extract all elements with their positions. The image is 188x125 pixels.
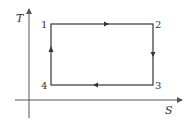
arrow-up-icon — [49, 46, 54, 52]
arrow-right-icon — [104, 22, 109, 27]
cycle-rectangle — [51, 24, 153, 85]
arrow-left-icon — [93, 83, 98, 88]
y-axis-label: T — [16, 12, 25, 25]
arrow-down-icon — [151, 52, 156, 57]
point-label-1: 1 — [41, 19, 47, 30]
point-label-3: 3 — [155, 80, 161, 91]
point-label-4: 4 — [41, 80, 47, 91]
ts-diagram: T S 1 2 3 4 — [0, 0, 188, 125]
point-label-2: 2 — [155, 19, 161, 30]
x-axis-label: S — [165, 104, 173, 117]
